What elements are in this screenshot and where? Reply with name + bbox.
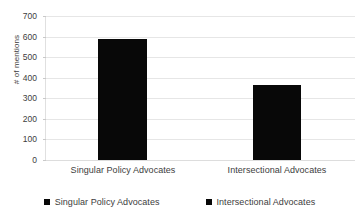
tick-mark-600 [43, 37, 46, 38]
gridline-400 [46, 78, 355, 79]
legend-item-singular-policy-advocates[interactable]: Singular Policy Advocates [44, 197, 160, 207]
legend-item-intersectional-advocates[interactable]: Intersectional Advocates [206, 197, 316, 207]
gridline-300 [46, 98, 355, 99]
y-tick-label-100: 100 [0, 134, 37, 144]
y-tick-label-200: 200 [0, 114, 37, 124]
gridline-100 [46, 139, 355, 140]
gridline-700 [46, 16, 355, 17]
gridline-500 [46, 57, 355, 58]
x-tick-label-intersectional-advocates: Intersectional Advocates [228, 165, 327, 175]
y-tick-label-300: 300 [0, 93, 37, 103]
legend-label-intersectional-advocates: Intersectional Advocates [217, 197, 316, 207]
y-axis-spine [45, 16, 46, 160]
tick-mark-500 [43, 57, 46, 58]
tick-mark-700 [43, 16, 46, 17]
tick-mark-0 [43, 160, 46, 161]
x-tick-label-singular-policy-advocates: Singular Policy Advocates [71, 165, 176, 175]
legend-label-singular-policy-advocates: Singular Policy Advocates [55, 197, 160, 207]
tick-mark-100 [43, 139, 46, 140]
tick-mark-400 [43, 78, 46, 79]
y-tick-label-0: 0 [0, 155, 37, 165]
plot-area: 700 600 500 400 300 200 100 0 [46, 16, 355, 160]
bar-singular-policy-advocates[interactable] [98, 39, 147, 160]
y-tick-label-400: 400 [0, 73, 37, 83]
y-tick-label-500: 500 [0, 52, 37, 62]
y-tick-label-600: 600 [0, 32, 37, 42]
legend-swatch-icon [44, 199, 50, 205]
bar-chart: # of mentions 700 600 500 400 300 200 10… [0, 0, 359, 217]
y-tick-label-700: 700 [0, 11, 37, 21]
gridline-200 [46, 119, 355, 120]
x-axis-labels: Singular Policy Advocates Intersectional… [46, 165, 355, 181]
gridline-600 [46, 37, 355, 38]
chart-legend: Singular Policy Advocates Intersectional… [0, 194, 359, 210]
gridline-0 [46, 160, 355, 161]
tick-mark-300 [43, 98, 46, 99]
bar-intersectional-advocates[interactable] [253, 85, 301, 160]
tick-mark-200 [43, 119, 46, 120]
legend-swatch-icon [206, 199, 212, 205]
